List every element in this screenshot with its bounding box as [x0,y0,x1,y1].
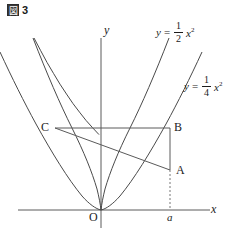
origin-label: O [89,211,98,223]
exponent-1: 2 [191,26,195,34]
fraction-denominator-2: 4 [202,87,211,98]
equation-label-parabola-wide: y = 1 4 x2 [184,75,223,98]
point-label-A: A [176,164,185,176]
x-axis-label: x [211,203,216,215]
graph-canvas [0,0,250,234]
point-label-C: C [41,121,49,133]
equation-argument-2: x2 [214,81,222,93]
equation-label-parabola-steep: y = 1 2 x2 [156,21,195,44]
fraction-one-quarter: 1 4 [202,75,211,98]
equals-sign-1: = [164,27,170,38]
equation-variable-2: y [184,81,189,92]
figure-container: 図 3 y x O a C B A y = 1 2 x2 [0,0,250,234]
fraction-denominator-1: 2 [174,33,183,44]
segment-CA [55,128,170,170]
exponent-2: 2 [219,80,223,88]
y-axis-label: y [104,24,109,36]
fraction-numerator-2: 1 [202,75,211,86]
point-label-B: B [174,121,182,133]
fraction-numerator-1: 1 [174,21,183,32]
fraction-one-half: 1 2 [174,21,183,44]
equation-variable-1: y [156,27,161,38]
equals-sign-2: = [192,81,198,92]
equation-argument-1: x2 [186,27,194,39]
x-tick-label-a: a [167,212,173,223]
